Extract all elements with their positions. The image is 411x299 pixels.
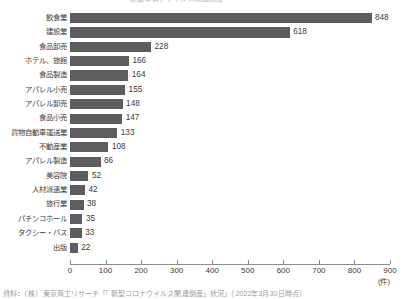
bar xyxy=(70,114,122,124)
category-label: 美容院 xyxy=(0,169,67,183)
x-axis-line xyxy=(70,264,390,265)
category-label: アパレル卸売 xyxy=(0,97,67,111)
x-axis-tick-mark xyxy=(283,260,284,264)
category-label: 食品製造 xyxy=(0,68,67,82)
bar-row: 旅行業38 xyxy=(0,197,411,211)
bar xyxy=(70,142,108,152)
bar-chart-figure: 新型コロナウイルス関連倒産 飲食業848建設業618食品卸売228ホテル、旅館1… xyxy=(0,0,411,299)
bar-row: 人材派遣業42 xyxy=(0,183,411,197)
bar xyxy=(70,70,128,80)
bar-track: 166 xyxy=(70,54,411,68)
bar-row: ホテル、旅館166 xyxy=(0,54,411,68)
x-axis-tick-label: 400 xyxy=(197,266,227,275)
bar-row: 建設業618 xyxy=(0,25,411,39)
bar-track: 228 xyxy=(70,40,411,54)
x-axis-tick-mark xyxy=(319,260,320,264)
bar-track: 164 xyxy=(70,68,411,82)
category-label: 食品卸売 xyxy=(0,40,67,54)
bar-row: 飲食業848 xyxy=(0,11,411,25)
bar-row: アパレル卸売148 xyxy=(0,97,411,111)
bar-row: 食品卸売228 xyxy=(0,40,411,54)
bar-value-label: 166 xyxy=(129,54,146,68)
x-axis-tick-mark xyxy=(141,260,142,264)
bar-row: 食品製造164 xyxy=(0,68,411,82)
bar-value-label: 147 xyxy=(122,111,139,125)
x-axis-tick-mark xyxy=(390,260,391,264)
bar xyxy=(70,200,84,210)
bar-track: 148 xyxy=(70,97,411,111)
x-axis-tick-label: 900 xyxy=(375,266,405,275)
x-axis-tick-label: 200 xyxy=(126,266,156,275)
bar-track: 848 xyxy=(70,11,411,25)
bar-value-label: 133 xyxy=(117,126,134,140)
bar-value-label: 86 xyxy=(101,154,114,168)
bar-value-label: 228 xyxy=(151,40,168,54)
bar-track: 35 xyxy=(70,212,411,226)
bar-track: 33 xyxy=(70,226,411,240)
x-axis-tick-mark xyxy=(177,260,178,264)
bar xyxy=(70,157,101,167)
bar-row: 食品小売147 xyxy=(0,111,411,125)
bar xyxy=(70,171,88,181)
bar-track: 108 xyxy=(70,140,411,154)
bar-row: 出版22 xyxy=(0,241,411,255)
x-axis-unit-label: (件) xyxy=(378,275,390,286)
bar-value-label: 38 xyxy=(84,197,97,211)
bar-track: 22 xyxy=(70,241,411,255)
bar-row: 不動産業108 xyxy=(0,140,411,154)
category-label: 飲食業 xyxy=(0,11,67,25)
bar-value-label: 848 xyxy=(372,11,389,25)
category-label: 貨物自動車運送業 xyxy=(0,126,67,140)
bar-row: アパレル製造86 xyxy=(0,154,411,168)
category-label: タクシー・バス xyxy=(0,226,67,240)
source-note: 資料：（株）東京商工リサーチ「「新型コロナウイルス関連倒産」状況」（2022年3… xyxy=(0,288,411,299)
bar xyxy=(70,128,117,138)
bar-row: タクシー・バス33 xyxy=(0,226,411,240)
category-label: アパレル製造 xyxy=(0,154,67,168)
bar-track: 147 xyxy=(70,111,411,125)
bar-track: 52 xyxy=(70,169,411,183)
bar-row: 貨物自動車運送業133 xyxy=(0,126,411,140)
category-label: 人材派遣業 xyxy=(0,183,67,197)
bar-track: 86 xyxy=(70,154,411,168)
category-label: 旅行業 xyxy=(0,197,67,211)
bar-track: 42 xyxy=(70,183,411,197)
bar-row: アパレル小売155 xyxy=(0,83,411,97)
x-axis-tick-mark xyxy=(106,260,107,264)
x-axis: (件) 0100200300400500600700800900 xyxy=(0,255,411,285)
x-axis-tick-label: 500 xyxy=(233,266,263,275)
clipped-header-strip: 新型コロナウイルス関連倒産 xyxy=(0,0,411,9)
bar-value-label: 148 xyxy=(123,97,140,111)
bar-value-label: 42 xyxy=(85,183,98,197)
clipped-header-text: 新型コロナウイルス関連倒産 xyxy=(130,0,400,3)
bar xyxy=(70,13,372,23)
bar-track: 155 xyxy=(70,83,411,97)
bar xyxy=(70,42,151,52)
bar xyxy=(70,99,123,109)
bar-track: 618 xyxy=(70,25,411,39)
x-axis-tick-mark xyxy=(212,260,213,264)
bar-value-label: 108 xyxy=(108,140,125,154)
x-axis-tick-label: 100 xyxy=(91,266,121,275)
x-axis-tick-label: 300 xyxy=(162,266,192,275)
bar-row: 美容院52 xyxy=(0,169,411,183)
bar-track: 38 xyxy=(70,197,411,211)
bar-value-label: 35 xyxy=(82,212,95,226)
x-axis-tick-mark xyxy=(70,260,71,264)
bar xyxy=(70,243,78,253)
x-axis-tick-mark xyxy=(354,260,355,264)
category-label: アパレル小売 xyxy=(0,83,67,97)
x-axis-tick-label: 800 xyxy=(339,266,369,275)
x-axis-tick-label: 600 xyxy=(268,266,298,275)
source-note-text: 資料：（株）東京商工リサーチ「「新型コロナウイルス関連倒産」状況」（2022年3… xyxy=(3,288,306,298)
x-axis-tick-label: 0 xyxy=(55,266,85,275)
category-label: 不動産業 xyxy=(0,140,67,154)
bar-value-label: 164 xyxy=(128,68,145,82)
category-label: 建設業 xyxy=(0,25,67,39)
bar-value-label: 155 xyxy=(125,83,142,97)
x-axis-tick-label: 700 xyxy=(304,266,334,275)
bar xyxy=(70,56,129,66)
bar xyxy=(70,214,82,224)
bar-value-label: 618 xyxy=(290,25,307,39)
bar xyxy=(70,185,85,195)
